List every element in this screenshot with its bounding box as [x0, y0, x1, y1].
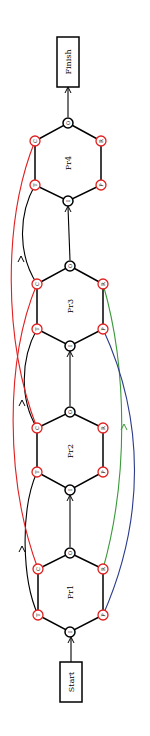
process-label: Pr3 — [66, 299, 75, 313]
process-pr3: Pr3 O I C T R P — [32, 261, 108, 351]
port-c-label: C — [34, 426, 40, 430]
port-o-label: O — [67, 264, 73, 268]
arrow-icon — [18, 256, 24, 262]
start-node: Start — [60, 662, 82, 702]
finish-node: Finish — [57, 37, 79, 87]
edge-pr2-c-to-pr3-t — [24, 329, 37, 428]
process-label: Pr2 — [66, 444, 75, 458]
process-label: Pr1 — [66, 585, 75, 599]
port-c-label: C — [35, 567, 41, 571]
edges-right — [103, 284, 135, 615]
port-r-label: R — [100, 567, 106, 571]
port-i-label: I — [67, 489, 73, 491]
arrow-icon — [19, 546, 25, 552]
port-i-label: I — [65, 200, 71, 202]
port-r-label: R — [98, 139, 104, 143]
process-label: Pr4 — [64, 156, 73, 170]
port-i-label: I — [67, 631, 73, 633]
edge-pr3-c-to-pr4-t — [22, 185, 37, 284]
edge-pr1-t-to-pr2-t — [25, 472, 38, 615]
start-label: Start — [67, 671, 76, 692]
process-pr1: Pr1 O I C T R P — [33, 548, 108, 637]
finish-label: Finish — [64, 49, 73, 74]
port-o-label: O — [65, 121, 71, 125]
port-o-label: O — [67, 551, 73, 555]
port-r-label: R — [100, 426, 106, 430]
process-pr2: Pr2 O I C T R P — [32, 407, 108, 495]
port-c-label: C — [34, 282, 40, 286]
port-o-label: O — [67, 410, 73, 414]
arrow-icon — [19, 400, 25, 406]
port-c-label: C — [32, 139, 38, 143]
edges-left — [11, 141, 38, 615]
port-r-label: R — [100, 282, 106, 286]
process-diagram: Finish Start Pr1 O I C T R P Pr2 O I C T — [0, 0, 150, 736]
port-i-label: I — [67, 345, 73, 347]
edge-pr3-to-pr4 — [68, 207, 70, 260]
process-pr4: Pr4 O I C T R P — [30, 118, 106, 206]
